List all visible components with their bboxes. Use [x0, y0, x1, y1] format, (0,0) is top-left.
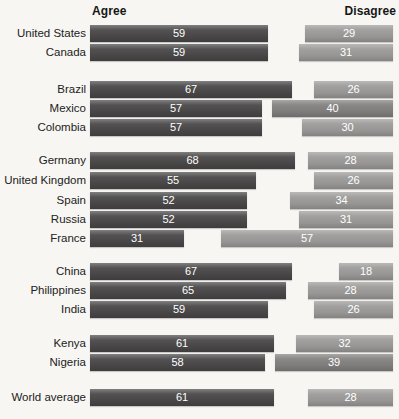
- country-label: China: [0, 263, 86, 280]
- disagree-bar: 57: [221, 230, 393, 247]
- agree-value: 52: [162, 192, 174, 209]
- country-label: Mexico: [0, 100, 86, 117]
- agree-bar: 55: [90, 172, 256, 189]
- table-row: Brazil6726: [0, 81, 399, 98]
- country-label: Kenya: [0, 335, 86, 352]
- table-row: Canada5931: [0, 44, 399, 61]
- disagree-value: 31: [340, 44, 352, 61]
- disagree-bar: 30: [302, 119, 393, 136]
- disagree-bar: 29: [305, 25, 393, 42]
- disagree-bar: 18: [339, 263, 393, 280]
- table-row: Germany6828: [0, 152, 399, 169]
- table-row: Philippines6528: [0, 282, 399, 299]
- agree-bar: 58: [90, 354, 265, 371]
- agree-bar: 59: [90, 301, 268, 318]
- agree-bar: 57: [90, 100, 262, 117]
- country-label: Colombia: [0, 119, 86, 136]
- disagree-column-header: Disagree: [345, 4, 397, 18]
- agree-value: 59: [173, 25, 185, 42]
- country-label: Nigeria: [0, 354, 86, 371]
- table-row: India5926: [0, 301, 399, 318]
- disagree-bar: 28: [308, 389, 393, 406]
- agree-bar: 59: [90, 25, 268, 42]
- disagree-value: 31: [340, 211, 352, 228]
- agree-value: 52: [162, 211, 174, 228]
- disagree-bar: 28: [308, 282, 393, 299]
- country-label: Germany: [0, 152, 86, 169]
- disagree-bar: 26: [314, 81, 393, 98]
- disagree-value: 57: [301, 230, 313, 247]
- agree-bar: 67: [90, 263, 292, 280]
- disagree-value: 28: [344, 282, 356, 299]
- agree-bar: 59: [90, 44, 268, 61]
- disagree-bar: 34: [290, 192, 393, 209]
- disagree-value: 39: [328, 354, 340, 371]
- agree-bar: 61: [90, 335, 274, 352]
- disagree-value: 32: [338, 335, 350, 352]
- agree-column-header: Agree: [92, 4, 127, 18]
- agree-bar: 65: [90, 282, 286, 299]
- table-row: Colombia5730: [0, 119, 399, 136]
- country-label: Canada: [0, 44, 86, 61]
- agree-value: 57: [170, 100, 182, 117]
- agree-value: 59: [173, 301, 185, 318]
- agree-value: 68: [186, 152, 198, 169]
- disagree-value: 18: [360, 263, 372, 280]
- agree-value: 65: [182, 282, 194, 299]
- table-row: Mexico5740: [0, 100, 399, 117]
- agree-bar: 57: [90, 119, 262, 136]
- disagree-bar: 39: [275, 354, 393, 371]
- agree-bar: 52: [90, 192, 247, 209]
- country-label: Spain: [0, 192, 86, 209]
- disagree-bar: 26: [314, 301, 393, 318]
- survey-bar-chart: Agree Disagree United States5929Canada59…: [0, 0, 399, 419]
- table-row: Russia5231: [0, 211, 399, 228]
- table-row: World average6128: [0, 389, 399, 406]
- agree-value: 61: [176, 389, 188, 406]
- agree-value: 67: [185, 81, 197, 98]
- table-row: United States5929: [0, 25, 399, 42]
- agree-bar: 68: [90, 152, 295, 169]
- disagree-value: 26: [347, 172, 359, 189]
- country-label: France: [0, 230, 86, 247]
- table-row: Spain5234: [0, 192, 399, 209]
- country-label: India: [0, 301, 86, 318]
- disagree-value: 26: [347, 301, 359, 318]
- country-label: United Kingdom: [0, 172, 86, 189]
- disagree-bar: 40: [272, 100, 393, 117]
- agree-value: 31: [131, 230, 143, 247]
- disagree-value: 40: [326, 100, 338, 117]
- agree-value: 57: [170, 119, 182, 136]
- disagree-bar: 31: [299, 211, 393, 228]
- table-row: France3157: [0, 230, 399, 247]
- agree-value: 55: [167, 172, 179, 189]
- disagree-value: 29: [343, 25, 355, 42]
- disagree-bar: 26: [314, 172, 393, 189]
- agree-bar: 52: [90, 211, 247, 228]
- disagree-value: 30: [341, 119, 353, 136]
- disagree-bar: 32: [296, 335, 393, 352]
- agree-bar: 67: [90, 81, 292, 98]
- disagree-bar: 28: [308, 152, 393, 169]
- disagree-value: 28: [344, 389, 356, 406]
- disagree-value: 28: [344, 152, 356, 169]
- agree-value: 67: [185, 263, 197, 280]
- agree-bar: 31: [90, 230, 184, 247]
- table-row: Kenya6132: [0, 335, 399, 352]
- country-label: United States: [0, 25, 86, 42]
- agree-value: 61: [176, 335, 188, 352]
- country-label: Philippines: [0, 282, 86, 299]
- country-label: Russia: [0, 211, 86, 228]
- table-row: China6718: [0, 263, 399, 280]
- agree-value: 59: [173, 44, 185, 61]
- disagree-value: 34: [335, 192, 347, 209]
- agree-bar: 61: [90, 389, 274, 406]
- table-row: United Kingdom5526: [0, 172, 399, 189]
- disagree-value: 26: [347, 81, 359, 98]
- country-label: Brazil: [0, 81, 86, 98]
- table-row: Nigeria5839: [0, 354, 399, 371]
- agree-value: 58: [171, 354, 183, 371]
- disagree-bar: 31: [299, 44, 393, 61]
- country-label: World average: [0, 389, 86, 406]
